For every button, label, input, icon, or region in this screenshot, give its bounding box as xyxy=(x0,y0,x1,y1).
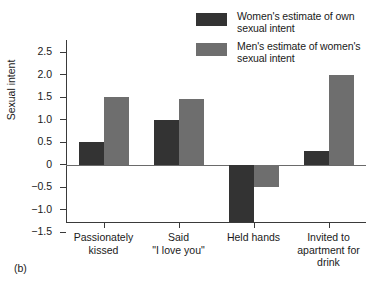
legend-label-women: Women's estimate of own sexual intent xyxy=(237,11,354,34)
y-tick-label-3: 1.0 xyxy=(18,113,52,125)
x-axis-category-labels: PassionatelykissedSaid"I love you"Held h… xyxy=(66,231,366,283)
bar-group3-series0 xyxy=(304,151,329,165)
legend-swatch-women xyxy=(196,13,227,26)
bar-group1-series0 xyxy=(154,120,179,165)
y-axis-title: Sexual intent xyxy=(5,35,17,145)
y-tick-label-1: 2.0 xyxy=(18,68,52,80)
y-tick-label-0: 2.5 xyxy=(18,45,52,57)
y-tick-label-7: −1.0 xyxy=(18,203,52,215)
bar-group1-series1 xyxy=(179,99,204,164)
y-tick-label-2: 1.5 xyxy=(18,90,52,102)
category-label-3: Invited toapartment fordrink xyxy=(279,231,378,269)
x-tick-3 xyxy=(329,222,330,228)
legend-label-women-line2: sexual intent xyxy=(237,23,354,35)
figure-caption: (b) xyxy=(14,262,27,274)
legend-item-women: Women's estimate of own sexual intent xyxy=(196,11,376,34)
y-tick-label-5: 0 xyxy=(18,158,52,170)
legend-label-women-line1: Women's estimate of own xyxy=(237,11,354,23)
figure-panel-b: Women's estimate of own sexual intent Me… xyxy=(0,0,379,285)
x-tick-0 xyxy=(104,222,105,228)
x-tick-1 xyxy=(179,222,180,228)
category-label-3-line-2: drink xyxy=(279,256,378,269)
y-tick-label-8: −1.5 xyxy=(18,225,52,237)
plot-area xyxy=(66,40,366,222)
category-label-3-line-1: apartment for xyxy=(279,244,378,257)
x-tick-2 xyxy=(254,222,255,228)
bar-group0-series1 xyxy=(104,97,129,165)
bar-group0-series0 xyxy=(79,142,104,165)
y-tick-label-4: 0.5 xyxy=(18,135,52,147)
bar-group3-series1 xyxy=(329,75,354,165)
bar-group2-series1 xyxy=(254,165,279,188)
category-label-3-line-0: Invited to xyxy=(279,231,378,244)
x-axis-line xyxy=(66,222,366,223)
y-tick-label-6: −0.5 xyxy=(18,180,52,192)
bar-group2-series0 xyxy=(229,165,254,222)
category-label-1-line-1: "I love you" xyxy=(129,244,228,257)
